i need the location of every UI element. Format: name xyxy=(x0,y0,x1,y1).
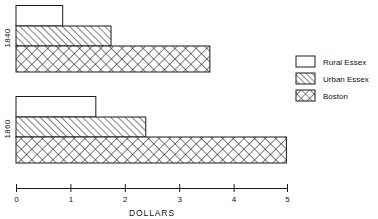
legend-label-urban-essex: Urban Essex xyxy=(323,75,369,84)
bar-1840-urban-essex xyxy=(16,26,111,46)
x-axis: 0 1 2 3 4 5 DOLLARS xyxy=(14,184,290,218)
legend-item-boston: Boston xyxy=(296,90,348,101)
legend-label-boston: Boston xyxy=(323,92,348,101)
legend-item-urban-essex: Urban Essex xyxy=(296,73,369,84)
diagonal-hatch-swatch xyxy=(296,73,315,84)
axis-tick-label-5: 5 xyxy=(285,195,290,204)
bar-group-1840 xyxy=(16,6,210,73)
group-label-1860: 1860 xyxy=(3,119,12,138)
legend-label-rural-essex: Rural Essex xyxy=(323,58,366,67)
bar-group-1860 xyxy=(16,97,286,164)
bar-1840-rural-essex xyxy=(16,6,63,27)
x-axis-title: DOLLARS xyxy=(129,208,175,218)
axis-tick-label-2: 2 xyxy=(123,195,128,204)
axis-tick-label-4: 4 xyxy=(232,195,237,204)
legend-item-rural-essex: Rural Essex xyxy=(296,56,366,67)
bar-1860-boston xyxy=(16,137,286,163)
group-label-1840: 1840 xyxy=(3,28,12,47)
bar-1840-boston xyxy=(16,46,210,72)
cross-hatch-swatch xyxy=(296,90,315,101)
legend: Rural Essex Urban Essex Boston xyxy=(296,56,369,101)
solid-white-swatch xyxy=(296,56,315,67)
chart-container: 1840 1860 0 1 2 3 4 5 DOLLARS xyxy=(0,0,378,219)
bar-1860-urban-essex xyxy=(16,117,146,137)
chart-figure: 1840 1860 0 1 2 3 4 5 DOLLARS xyxy=(0,0,378,219)
bar-1860-rural-essex xyxy=(16,97,96,118)
axis-tick-label-1: 1 xyxy=(69,195,74,204)
axis-tick-label-3: 3 xyxy=(177,195,182,204)
axis-tick-label-0: 0 xyxy=(14,195,19,204)
